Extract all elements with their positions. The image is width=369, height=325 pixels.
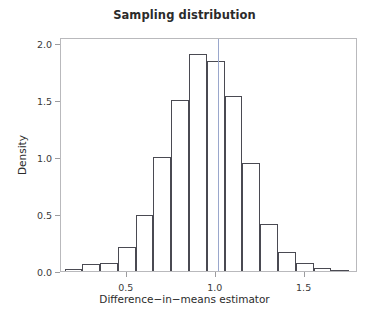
y-axis-tick-label: 2.0 xyxy=(12,38,52,49)
x-axis-tick-mark xyxy=(215,272,216,277)
histogram-bar xyxy=(260,224,278,271)
chart-title: Sampling distribution xyxy=(0,8,369,22)
histogram-bar xyxy=(225,96,243,271)
histogram-bar xyxy=(242,163,260,271)
histogram-bar xyxy=(171,100,189,271)
x-axis-label: Difference−in−means estimator xyxy=(0,293,369,305)
x-axis-tick-mark xyxy=(304,272,305,277)
y-axis-tick-label: 1.5 xyxy=(12,95,52,106)
plot-area xyxy=(60,38,357,272)
histogram-bar xyxy=(82,264,100,271)
y-axis-tick-mark xyxy=(55,215,60,216)
y-axis-tick-mark xyxy=(55,44,60,45)
y-axis-tick-label: 0.0 xyxy=(12,267,52,278)
y-axis-tick-mark xyxy=(55,101,60,102)
histogram-bar xyxy=(278,252,296,271)
histogram-bars xyxy=(61,39,356,271)
y-axis-tick-mark xyxy=(55,158,60,159)
histogram-bar xyxy=(136,215,154,271)
true-value-reference-line xyxy=(218,39,220,271)
x-axis-tick-label: 0.5 xyxy=(106,282,146,293)
x-axis-tick-label: 1.5 xyxy=(284,282,324,293)
x-axis-tick-mark xyxy=(126,272,127,277)
histogram-bar xyxy=(65,269,83,271)
histogram-bar xyxy=(207,61,225,271)
x-axis-tick-label: 1.0 xyxy=(195,282,235,293)
histogram-bar xyxy=(118,247,136,271)
histogram-bar xyxy=(314,268,332,271)
histogram-bar xyxy=(189,54,207,271)
y-axis-tick-mark xyxy=(55,272,60,273)
histogram-bar xyxy=(100,263,118,271)
histogram-bar xyxy=(331,270,349,271)
y-axis-tick-label: 0.5 xyxy=(12,209,52,220)
histogram-bar xyxy=(296,263,314,271)
y-axis-tick-label: 1.0 xyxy=(12,152,52,163)
histogram-bar xyxy=(153,157,171,271)
sampling-distribution-figure: Sampling distribution Difference−in−mean… xyxy=(0,0,369,325)
